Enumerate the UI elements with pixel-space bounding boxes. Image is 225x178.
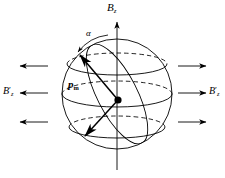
moment-subscript: m [74,84,79,91]
axis-field-label: Bz [107,2,116,15]
field-arrows-left [20,66,48,122]
origin-dot [114,96,121,103]
moment-vector-up [80,55,118,100]
field-label-right: B′z [209,86,219,97]
field-right-subscript: z [217,90,219,97]
moment-vector-up-line [80,55,118,100]
magnetic-moment-diagram: Bz B′z B′z α pm [0,0,225,178]
angle-label-alpha: α [86,29,91,38]
axis-field-subscript: z [114,7,117,14]
moment-label: pm [68,79,79,91]
field-arrows-right [178,66,206,122]
field-left-subscript: z [11,90,13,97]
axis-field-base: B [107,1,114,13]
angle-arc-alpha [78,35,108,52]
field-label-left: B′z [3,86,13,97]
diagram-canvas [0,0,225,178]
